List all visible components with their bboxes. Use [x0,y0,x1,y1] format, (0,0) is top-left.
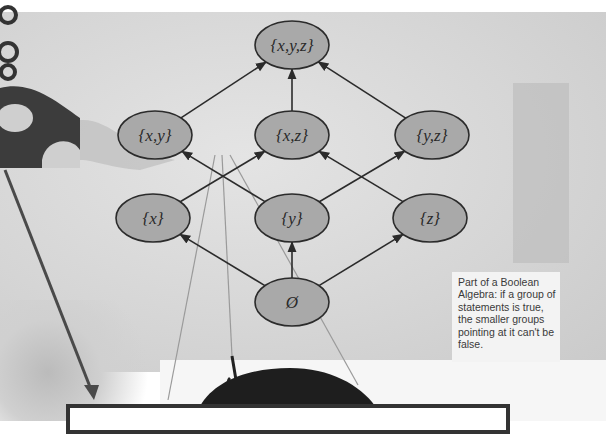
edge-group [180,62,406,286]
node-x: {x} [116,194,190,242]
node-xy: {x,y} [118,111,192,159]
edge-arrow-xy-to-xyz [181,62,266,118]
node-y: {y} [255,194,329,242]
node-label: {x,y,z} [271,36,314,55]
node-xz: {x,z} [255,111,329,159]
node-label: {y} [281,209,302,228]
node-yz: {y,z} [395,111,469,159]
edge-arrow-empty-to-z [319,234,403,285]
node-empty: Ø [255,278,329,326]
caption-text: Part of a Boolean Algebra: if a group of… [458,276,555,350]
caption-box: Part of a Boolean Algebra: if a group of… [452,272,560,362]
node-z: {z} [393,194,467,242]
bottom-text-box [66,404,510,434]
node-label: {z} [420,209,440,228]
node-label: {x} [142,209,163,228]
edge-arrow-yz-to-xyz [318,62,405,118]
node-label: Ø [285,293,299,312]
node-label: {y,z} [416,126,447,145]
node-xyz: {x,y,z} [255,21,329,69]
node-label: {x,z} [276,126,308,145]
node-label: {x,y} [139,126,172,145]
node-group: {x,y,z}{x,y}{x,z}{y,z}{x}{y}{z}Ø [116,21,469,326]
edge-arrow-empty-to-x [180,234,265,285]
